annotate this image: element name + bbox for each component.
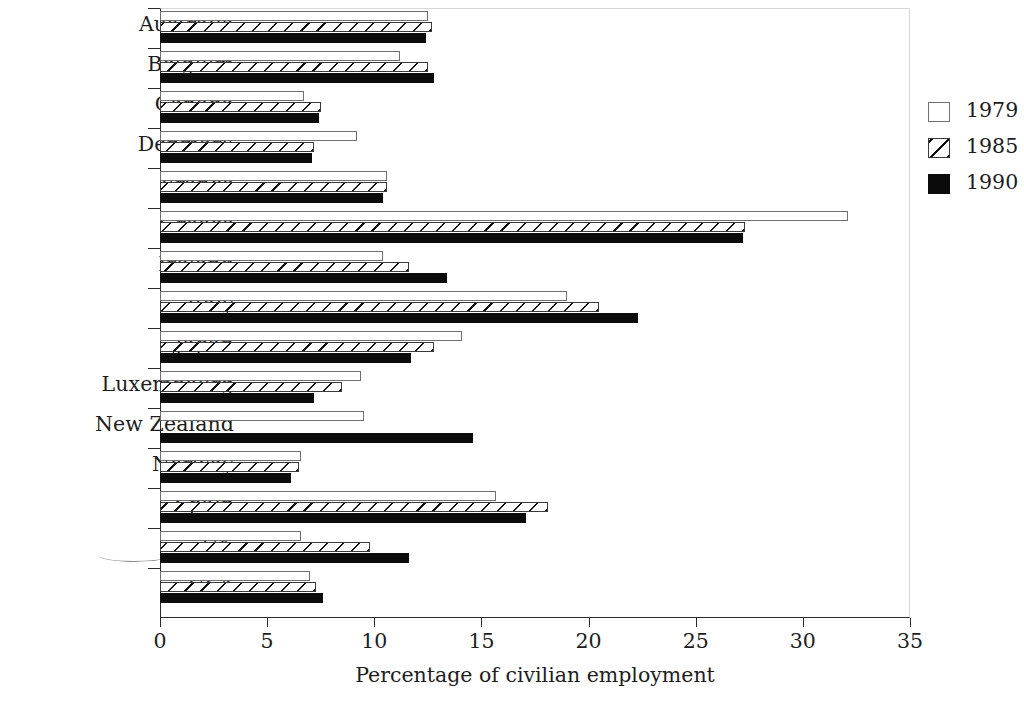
legend-item-1985: 1985 — [928, 134, 1024, 170]
x-axis-tick — [374, 618, 375, 627]
x-axis-tick-label: 0 — [153, 629, 166, 653]
bar-italy-1985 — [160, 302, 599, 312]
legend-item-1979: 1979 — [928, 98, 1024, 134]
bar-group — [160, 168, 920, 208]
x-axis-tick-label: 10 — [361, 629, 387, 653]
bar-canada-1985 — [160, 102, 321, 112]
bar-group — [160, 208, 920, 248]
bar-group — [160, 248, 920, 288]
bar-france-1990 — [160, 193, 383, 203]
chart-row: Australia — [0, 8, 1024, 48]
bar-canada-1979 — [160, 91, 304, 101]
bar-uk-1985 — [160, 542, 370, 552]
y-axis-tick — [148, 408, 160, 409]
chart-row: Belgium — [0, 48, 1024, 88]
bar-new-zealand-1979 — [160, 411, 364, 421]
bar-france-1979 — [160, 171, 387, 181]
bar-australia-1990 — [160, 33, 426, 43]
bar-group — [160, 288, 920, 328]
bar-luxembourg-1990 — [160, 393, 314, 403]
legend-label: 1990 — [966, 170, 1018, 194]
y-axis-tick — [148, 568, 160, 569]
bar-group — [160, 488, 920, 528]
bar-spain-1990 — [160, 513, 526, 523]
bar-greece-1979 — [160, 211, 848, 221]
chart-row: France — [0, 168, 1024, 208]
bar-italy-1990 — [160, 313, 638, 323]
bar-australia-1979 — [160, 11, 428, 21]
legend-swatch-black-square — [928, 174, 950, 194]
bar-usa-1990 — [160, 593, 323, 603]
bar-denmark-1990 — [160, 153, 312, 163]
chart-row: Japan — [0, 328, 1024, 368]
bar-usa-1979 — [160, 571, 310, 581]
bar-greece-1990 — [160, 233, 743, 243]
y-axis-tick — [148, 528, 160, 529]
bar-belgium-1990 — [160, 73, 434, 83]
y-axis-tick — [148, 248, 160, 249]
bar-group — [160, 368, 920, 408]
bar-group — [160, 128, 920, 168]
chart-row: Canada — [0, 88, 1024, 128]
bar-uk-1990 — [160, 553, 409, 563]
bar-norway-1979 — [160, 451, 301, 461]
bar-uk-1979 — [160, 531, 301, 541]
x-axis-tick — [910, 618, 911, 627]
bar-group — [160, 408, 920, 448]
bar-japan-1990 — [160, 353, 411, 363]
x-axis-tick — [696, 618, 697, 627]
bar-usa-1985 — [160, 582, 316, 592]
bar-chart: AustraliaBelgiumCanadaDenmarkFranceGreec… — [0, 0, 1024, 701]
bar-group — [160, 8, 920, 48]
bar-australia-1985 — [160, 22, 432, 32]
x-axis-tick-label: 15 — [468, 629, 494, 653]
y-axis-tick — [148, 48, 160, 49]
y-axis-tick — [148, 448, 160, 449]
chart-row: New Zealand — [0, 408, 1024, 448]
chart-row: Norway — [0, 448, 1024, 488]
bar-belgium-1985 — [160, 62, 428, 72]
bar-ireland-1985 — [160, 262, 409, 272]
bar-group — [160, 568, 920, 608]
x-axis-tick-label: 20 — [576, 629, 602, 653]
bar-japan-1979 — [160, 331, 462, 341]
y-axis-tick — [148, 168, 160, 169]
chart-row: UK — [0, 528, 1024, 568]
category-rows: AustraliaBelgiumCanadaDenmarkFranceGreec… — [0, 8, 1024, 618]
bar-greece-1985 — [160, 222, 745, 232]
x-axis-tick — [589, 618, 590, 627]
chart-row: Luxembourg — [0, 368, 1024, 408]
bar-denmark-1985 — [160, 142, 314, 152]
chart-row: Denmark — [0, 128, 1024, 168]
bar-spain-1979 — [160, 491, 496, 501]
bar-norway-1990 — [160, 473, 291, 483]
y-axis-tick — [148, 488, 160, 489]
y-axis-tick — [148, 208, 160, 209]
x-axis-tick — [803, 618, 804, 627]
chart-row: Spain — [0, 488, 1024, 528]
chart-row: USA — [0, 568, 1024, 608]
bar-group — [160, 328, 920, 368]
y-axis-tick — [148, 128, 160, 129]
bar-group — [160, 448, 920, 488]
y-axis-tick — [148, 88, 160, 89]
y-axis-tick — [148, 328, 160, 329]
bar-group — [160, 48, 920, 88]
bar-italy-1979 — [160, 291, 567, 301]
y-axis-tick — [148, 368, 160, 369]
x-axis-tick — [160, 618, 161, 627]
bar-luxembourg-1979 — [160, 371, 361, 381]
y-axis-tick — [148, 8, 160, 9]
bar-japan-1985 — [160, 342, 434, 352]
legend: 197919851990 — [928, 98, 1024, 206]
legend-label: 1985 — [966, 134, 1018, 158]
x-axis-title: Percentage of civilian employment — [160, 663, 910, 687]
x-axis-tick — [481, 618, 482, 627]
bar-belgium-1979 — [160, 51, 400, 61]
legend-swatch-white-square — [928, 102, 950, 122]
bar-ireland-1990 — [160, 273, 447, 283]
bar-spain-1985 — [160, 502, 548, 512]
bar-denmark-1979 — [160, 131, 357, 141]
chart-row: Greece — [0, 208, 1024, 248]
bar-luxembourg-1985 — [160, 382, 342, 392]
